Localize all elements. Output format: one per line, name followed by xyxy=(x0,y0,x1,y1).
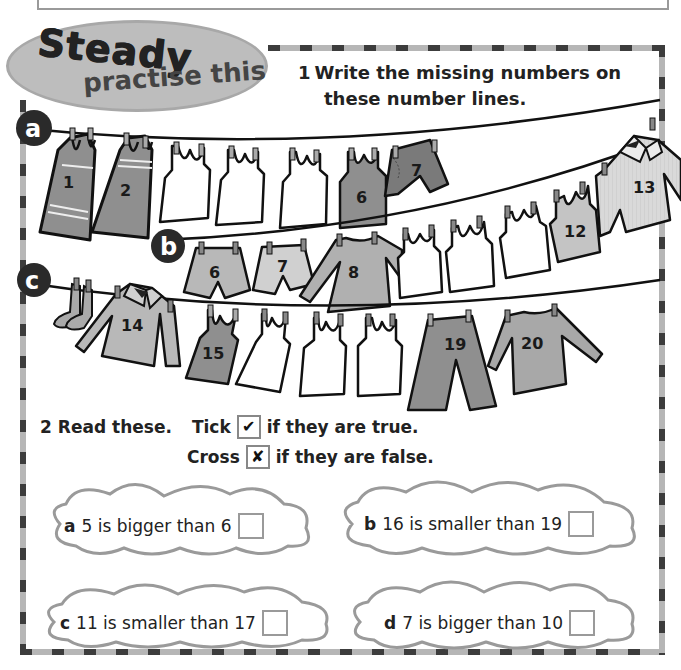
garment-vest-blank xyxy=(160,142,210,222)
garment-value: 15 xyxy=(202,344,224,363)
garment-vest-12: 12 xyxy=(550,182,600,262)
tick-rule-row: 2 Read these. Tick ✔ if they are true. xyxy=(40,412,434,442)
garment-shorts-6: 6 xyxy=(184,242,250,298)
line-a-label: a xyxy=(25,115,41,143)
garment-vest-blank xyxy=(216,146,264,225)
statement-text: 16 is smaller than 19 xyxy=(382,514,562,534)
garment-vest-blank xyxy=(236,309,290,392)
washing-lines-illustration: a 1 2 xyxy=(0,0,681,420)
garment-value: 6 xyxy=(209,263,220,282)
line-b-label: b xyxy=(160,233,177,261)
tick-label: Tick xyxy=(192,417,231,437)
garment-trousers-19: 19 xyxy=(408,310,496,410)
garment-vest-blank xyxy=(398,225,442,298)
line-c-label: c xyxy=(25,267,39,295)
garment-value: 20 xyxy=(521,334,543,353)
tick-icon: ✔ xyxy=(237,415,261,439)
garment-socks xyxy=(54,278,92,330)
garment-vest-blank xyxy=(280,148,327,228)
question-2-intro: Read these. xyxy=(58,417,172,437)
garment-vest-15: 15 xyxy=(186,305,238,384)
statement-letter: c xyxy=(60,613,70,633)
garment-dress-2: 2 xyxy=(92,133,152,238)
cross-rule: if they are false. xyxy=(276,447,434,467)
garment-value: 1 xyxy=(63,173,74,192)
statement-text: 7 is bigger than 10 xyxy=(402,613,563,633)
tick-rule: if they are true. xyxy=(267,417,419,437)
question-2-instructions: 2 Read these. Tick ✔ if they are true. C… xyxy=(40,412,434,472)
statement-a: a 5 is bigger than 6 xyxy=(64,513,264,539)
garment-value: 7 xyxy=(277,257,288,276)
cross-rule-row: Cross ✘ if they are false. xyxy=(40,442,434,472)
garment-shorts-7b: 7 xyxy=(253,239,314,294)
statement-letter: a xyxy=(64,516,75,536)
garment-value: 19 xyxy=(444,335,466,354)
statement-b: b 16 is smaller than 19 xyxy=(364,511,594,537)
garment-value: 13 xyxy=(633,178,655,197)
statement-text: 5 is bigger than 6 xyxy=(81,516,231,536)
answer-box-d[interactable] xyxy=(569,610,595,636)
garment-vest-blank xyxy=(500,202,550,278)
statement-d: d 7 is bigger than 10 xyxy=(384,610,595,636)
statement-letter: d xyxy=(384,613,396,633)
garment-value: 7 xyxy=(411,161,422,180)
garment-value: 14 xyxy=(121,316,143,335)
garment-vest-blank xyxy=(446,216,494,292)
answer-box-a[interactable] xyxy=(238,513,264,539)
garment-value: 8 xyxy=(348,263,359,282)
garment-value: 6 xyxy=(356,188,367,207)
cross-icon: ✘ xyxy=(246,445,270,469)
garment-value: 12 xyxy=(564,222,586,241)
statement-letter: b xyxy=(364,514,376,534)
garment-shirt-13: 13 xyxy=(596,118,681,236)
question-number: 2 xyxy=(40,417,52,437)
garment-vest-blank xyxy=(358,314,402,396)
garment-jumper-8: 8 xyxy=(300,232,402,312)
statement-text: 11 is smaller than 17 xyxy=(76,613,256,633)
garment-value: 2 xyxy=(120,181,131,200)
cross-label: Cross xyxy=(187,447,240,467)
statement-c: c 11 is smaller than 17 xyxy=(60,610,288,636)
answer-box-c[interactable] xyxy=(262,610,288,636)
garment-shorts-7: 7 xyxy=(385,140,448,196)
garment-dress-1: 1 xyxy=(40,128,95,240)
garment-vest-blank xyxy=(300,312,346,396)
answer-box-b[interactable] xyxy=(568,511,594,537)
garment-jumper-20: 20 xyxy=(488,304,602,394)
